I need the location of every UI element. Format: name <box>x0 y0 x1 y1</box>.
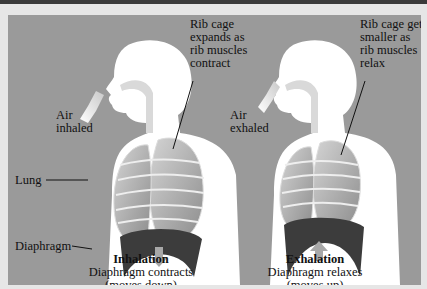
inhalation-figure <box>46 40 240 285</box>
exhalation-caption-line: (moves up) <box>250 279 380 285</box>
air-label-line: exhaled <box>230 122 269 135</box>
top-border <box>0 0 427 4</box>
rib-label-line: relax <box>360 57 421 70</box>
rib-label-line: contract <box>190 57 247 70</box>
rib-cage-smaller-label: Rib cage gets smaller as rib muscles rel… <box>360 18 421 70</box>
breathing-diagram: Rib cage expands as rib muscles contract… <box>8 15 421 285</box>
right-lung-right <box>313 141 360 227</box>
exhalation-caption: Exhalation Diaphragm relaxes (moves up) <box>250 253 380 285</box>
rib-cage-expands-label: Rib cage expands as rib muscles contract <box>190 18 247 70</box>
inhalation-caption: Inhalation Diaphragm contracts (moves do… <box>76 253 206 285</box>
diaphragm-label: Diaphragm <box>15 240 71 253</box>
air-label-line: inhaled <box>56 122 93 135</box>
lung-label: Lung <box>15 174 41 187</box>
exhalation-figure <box>258 40 400 285</box>
diaphragm-leader-line <box>72 246 92 249</box>
air-exhaled-label: Air exhaled <box>230 109 269 135</box>
air-inhaled-label: Air inhaled <box>56 109 93 135</box>
inhalation-caption-line: (moves down) <box>76 279 206 285</box>
